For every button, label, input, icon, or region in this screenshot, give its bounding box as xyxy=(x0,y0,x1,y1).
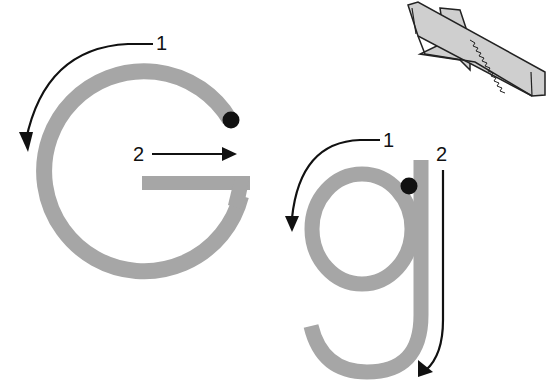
arrowhead-icon xyxy=(285,216,299,232)
uppercase-stroke-2-arrow: 2 xyxy=(133,143,237,165)
knife-icon xyxy=(408,2,545,96)
arrowhead-icon xyxy=(19,132,33,152)
lowercase-g-start-dot xyxy=(401,178,418,195)
arrowhead-icon xyxy=(222,147,237,161)
lowercase-stroke-2-label: 2 xyxy=(436,143,447,165)
letter-tracing-worksheet: 1 2 1 2 xyxy=(0,0,551,390)
uppercase-stroke-1-label: 1 xyxy=(156,32,167,54)
uppercase-g xyxy=(44,71,250,271)
arrowhead-icon xyxy=(418,360,433,377)
uppercase-g-arc xyxy=(44,71,241,271)
uppercase-stroke-2-label: 2 xyxy=(133,143,144,165)
lowercase-stroke-1-label: 1 xyxy=(383,129,394,151)
lowercase-g-bowl xyxy=(312,174,412,284)
uppercase-g-start-dot xyxy=(223,112,240,129)
lowercase-g xyxy=(311,160,421,372)
